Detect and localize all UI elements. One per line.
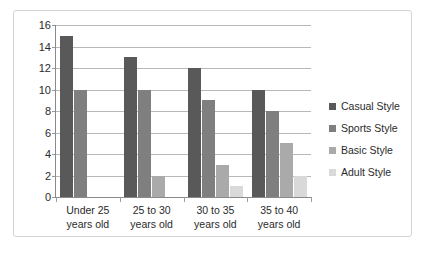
y-tick-label-10: 10: [14, 84, 51, 95]
legend-item[interactable]: Casual Style: [329, 95, 409, 117]
bar-slot: [102, 25, 115, 197]
x-axis-ticks: [56, 197, 311, 202]
bar[interactable]: [294, 176, 307, 198]
legend-label: Sports Style: [341, 123, 398, 134]
bar[interactable]: [60, 36, 73, 197]
x-tick: [247, 197, 248, 202]
bar[interactable]: [252, 90, 265, 198]
x-tick: [184, 197, 185, 202]
x-axis-label: 25 to 30years old: [120, 204, 184, 232]
bar-slot: [60, 25, 73, 197]
bar-slot: [202, 25, 215, 197]
x-axis-label: 35 to 40years old: [247, 204, 311, 232]
x-axis-label-line: years old: [121, 218, 183, 232]
y-tick-label-4: 4: [14, 149, 51, 160]
y-tick-label-16: 16: [14, 20, 51, 31]
bar[interactable]: [74, 90, 87, 198]
bar-group: [120, 25, 184, 197]
y-tick-label-0: 0: [14, 192, 51, 203]
x-axis-label-line: 30 to 35: [185, 204, 247, 218]
bar[interactable]: [124, 57, 137, 197]
bar[interactable]: [216, 165, 229, 197]
legend-label: Basic Style: [341, 145, 393, 156]
bar-slot: [280, 25, 293, 197]
bar-group: [56, 25, 120, 197]
legend-swatch-icon: [329, 103, 336, 110]
bar-slot: [74, 25, 87, 197]
x-axis-label-line: years old: [57, 218, 119, 232]
bar-slot: [230, 25, 243, 197]
bar-slot: [152, 25, 165, 197]
bar[interactable]: [138, 90, 151, 198]
legend-item[interactable]: Sports Style: [329, 117, 409, 139]
x-axis-label: 30 to 35years old: [184, 204, 248, 232]
x-axis-label-line: Under 25: [57, 204, 119, 218]
legend-label: Adult Style: [341, 167, 391, 178]
legend-swatch-icon: [329, 147, 336, 154]
legend-swatch-icon: [329, 125, 336, 132]
x-axis-label-line: years old: [185, 218, 247, 232]
bar[interactable]: [188, 68, 201, 197]
y-tick-label-2: 2: [14, 170, 51, 181]
y-tick-label-12: 12: [14, 63, 51, 74]
bar-slot: [188, 25, 201, 197]
chart-legend: Casual StyleSports StyleBasic StyleAdult…: [329, 95, 409, 183]
x-axis-label: Under 25years old: [56, 204, 120, 232]
x-axis-label-line: 35 to 40: [248, 204, 310, 218]
x-axis-label-line: 25 to 30: [121, 204, 183, 218]
bar-slot: [124, 25, 137, 197]
x-tick: [311, 197, 312, 202]
x-tick: [120, 197, 121, 202]
bar-slot: [138, 25, 151, 197]
bar[interactable]: [152, 176, 165, 198]
legend-label: Casual Style: [341, 101, 400, 112]
x-axis-label-line: years old: [248, 218, 310, 232]
legend-item[interactable]: Adult Style: [329, 161, 409, 183]
bar[interactable]: [280, 143, 293, 197]
bar[interactable]: [266, 111, 279, 197]
chart-frame: 1614121086420 Under 25years old25 to 30y…: [13, 10, 412, 237]
legend-swatch-icon: [329, 169, 336, 176]
bar-slot: [216, 25, 229, 197]
bar-slot: [88, 25, 101, 197]
plot-area: [56, 25, 311, 197]
bar-slot: [252, 25, 265, 197]
y-axis: 1614121086420: [14, 11, 51, 211]
y-tick-label-14: 14: [14, 41, 51, 52]
y-tick-label-6: 6: [14, 127, 51, 138]
bar[interactable]: [230, 186, 243, 197]
x-tick: [56, 197, 57, 202]
bar-slot: [166, 25, 179, 197]
bar-group: [247, 25, 311, 197]
bar-slot: [294, 25, 307, 197]
bar-group: [184, 25, 248, 197]
legend-item[interactable]: Basic Style: [329, 139, 409, 161]
y-tick-label-8: 8: [14, 106, 51, 117]
x-axis-labels: Under 25years old25 to 30years old30 to …: [56, 204, 311, 232]
bar-slot: [266, 25, 279, 197]
bar[interactable]: [202, 100, 215, 197]
bar-groups: [56, 25, 311, 197]
